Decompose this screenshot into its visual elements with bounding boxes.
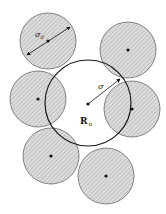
small-center-dot	[49, 154, 52, 157]
small-center-dot	[126, 48, 129, 51]
radius-label: σ	[98, 82, 104, 91]
center-label: Ro	[80, 116, 92, 127]
small-center-dot	[104, 174, 107, 177]
small-circles	[10, 13, 160, 204]
packing-diagram: σd σ Ro	[0, 0, 166, 214]
small-center-dot	[36, 97, 39, 100]
